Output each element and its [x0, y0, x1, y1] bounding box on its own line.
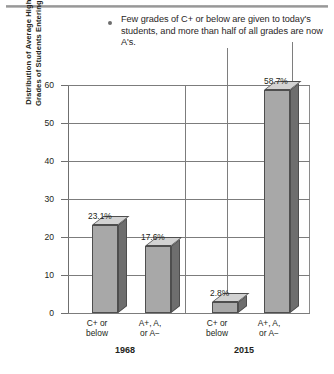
- bar-value-label-1968-c-or-below: 23.1%: [88, 211, 112, 221]
- bar-value-label-1968-a-grades: 17.6%: [141, 232, 165, 242]
- bar-front-face: [145, 246, 171, 313]
- bar-2015-c-or-below: [212, 302, 238, 313]
- y-tick-label-0: 0: [32, 308, 54, 318]
- bar-front-face: [212, 302, 238, 313]
- category-label-line-2: below: [206, 328, 228, 338]
- category-label-line-1: A+, A,: [139, 318, 162, 328]
- tick-mark-30: [61, 199, 68, 200]
- y-tick-label-40: 40: [32, 156, 54, 166]
- tick-mark-10: [61, 275, 68, 276]
- plot-area: 60 50 40 30 20 10 0 Distribution of Aver…: [68, 85, 310, 313]
- bar-side-face: [290, 83, 299, 313]
- group-label-1968: 1968: [100, 345, 150, 355]
- group-label-2015: 2015: [219, 345, 269, 355]
- category-label-2015-c-or-below: C+ or below: [192, 318, 242, 339]
- category-label-line-2: or A−: [140, 328, 160, 338]
- y-axis-title: Distribution of Average High School Grad…: [24, 0, 43, 133]
- category-label-line-1: A+, A,: [258, 318, 281, 328]
- category-label-line-2: or A−: [259, 328, 279, 338]
- category-label-2015-a-grades: A+, A, or A−: [244, 318, 294, 339]
- bar-1968-a-grades: [145, 246, 171, 313]
- category-label-line-1: C+ or: [207, 318, 228, 328]
- y-tick-label-10: 10: [32, 270, 54, 280]
- bar-front-face: [92, 225, 118, 313]
- y-tick-label-20: 20: [32, 232, 54, 242]
- tick-mark-20: [61, 237, 68, 238]
- y-tick-label-30: 30: [32, 194, 54, 204]
- y-axis-title-line-1: Distribution of Average High School: [24, 0, 33, 105]
- bar-1968-c-or-below: [92, 225, 118, 313]
- chart-figure: Few grades of C+ or below are given to t…: [0, 0, 334, 374]
- tick-mark-40: [61, 161, 68, 162]
- bar-2015-a-grades: [264, 90, 290, 313]
- category-label-line-1: C+ or: [87, 318, 108, 328]
- bar-side-face: [171, 239, 180, 313]
- category-label-1968-c-or-below: C+ or below: [72, 318, 122, 339]
- gridline-0: [68, 313, 310, 314]
- category-label-line-2: below: [86, 328, 108, 338]
- tick-mark-50: [61, 123, 68, 124]
- tick-mark-0: [61, 313, 68, 314]
- category-label-1968-a-grades: A+, A, or A−: [125, 318, 175, 339]
- bar-front-face: [264, 90, 290, 313]
- top-divider-rule: [6, 5, 328, 8]
- y-axis-title-line-2: Grades of Students Entering College: [34, 0, 43, 106]
- bar-value-label-2015-a-grades: 58.7%: [264, 76, 288, 86]
- tick-mark-60: [61, 85, 68, 86]
- bar-side-face: [118, 218, 127, 313]
- bullet-dot-icon: [108, 21, 112, 25]
- bar-value-label-2015-c-or-below: 2.8%: [210, 288, 229, 298]
